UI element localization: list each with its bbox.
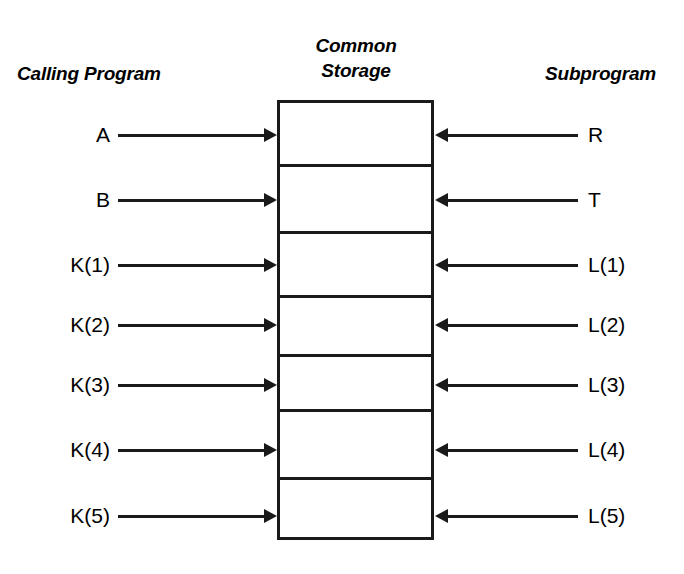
- right-label-7: L(5): [588, 505, 625, 526]
- storage-divider-3: [277, 295, 434, 298]
- right-arrow-line-3: [446, 264, 578, 267]
- diagram-canvas: Calling Program Common Storage Subprogra…: [0, 0, 684, 574]
- right-arrow-line-7: [446, 515, 578, 518]
- storage-divider-4: [277, 354, 434, 357]
- right-arrow-line-4: [446, 324, 578, 327]
- left-arrow-line-3: [118, 264, 267, 267]
- right-arrow-line-1: [446, 134, 578, 137]
- arrow-left-icon-4: [435, 318, 448, 332]
- right-label-1: R: [588, 124, 603, 145]
- arrow-left-icon-7: [435, 509, 448, 523]
- right-label-4: L(2): [588, 314, 625, 335]
- storage-divider-6: [277, 477, 434, 480]
- left-arrow-line-1: [118, 134, 267, 137]
- arrow-left-icon-5: [435, 378, 448, 392]
- left-arrow-line-5: [118, 384, 267, 387]
- storage-divider-2: [277, 231, 434, 234]
- left-arrow-line-7: [118, 515, 267, 518]
- left-arrow-line-4: [118, 324, 267, 327]
- right-arrow-line-6: [446, 449, 578, 452]
- right-label-5: L(3): [588, 374, 625, 395]
- right-arrow-line-2: [446, 199, 578, 202]
- right-label-2: T: [588, 189, 601, 210]
- left-label-7: K(5): [70, 505, 110, 526]
- right-label-3: L(1): [588, 254, 625, 275]
- left-label-1: A: [96, 124, 110, 145]
- right-label-6: L(4): [588, 439, 625, 460]
- left-label-2: B: [96, 189, 110, 210]
- left-label-6: K(4): [70, 439, 110, 460]
- left-arrow-line-2: [118, 199, 267, 202]
- right-arrow-line-5: [446, 384, 578, 387]
- arrow-right-icon-4: [264, 318, 277, 332]
- arrow-right-icon-3: [264, 258, 277, 272]
- arrow-left-icon-6: [435, 443, 448, 457]
- storage-divider-1: [277, 164, 434, 167]
- storage-divider-5: [277, 409, 434, 412]
- arrow-right-icon-6: [264, 443, 277, 457]
- left-arrow-line-6: [118, 449, 267, 452]
- arrow-left-icon-1: [435, 128, 448, 142]
- header-common-storage-line2: Storage: [277, 58, 435, 83]
- header-calling-program: Calling Program: [17, 63, 161, 85]
- header-subprogram: Subprogram: [545, 63, 656, 85]
- left-label-5: K(3): [70, 374, 110, 395]
- arrow-right-icon-5: [264, 378, 277, 392]
- left-label-4: K(2): [70, 314, 110, 335]
- header-common-storage: Common Storage: [277, 33, 435, 83]
- arrow-right-icon-7: [264, 509, 277, 523]
- header-common-storage-line1: Common: [277, 33, 435, 58]
- arrow-right-icon-2: [264, 193, 277, 207]
- arrow-left-icon-2: [435, 193, 448, 207]
- left-label-3: K(1): [70, 254, 110, 275]
- arrow-left-icon-3: [435, 258, 448, 272]
- arrow-right-icon-1: [264, 128, 277, 142]
